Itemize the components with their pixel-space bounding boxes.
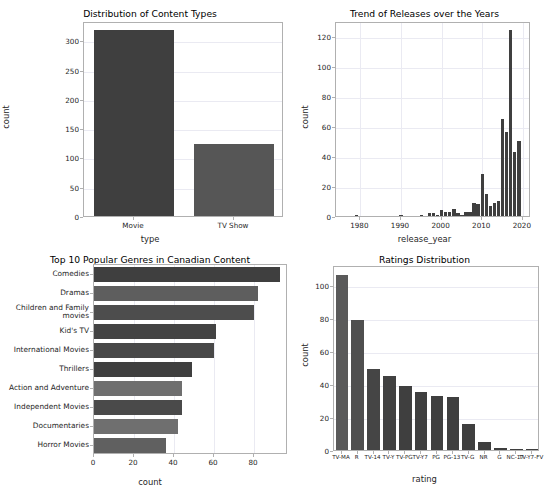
bar xyxy=(452,209,455,217)
y-axis-category-label: International Movies xyxy=(0,345,89,353)
y-axis-tick-label: 80 xyxy=(307,314,329,323)
chart-title-release-trend: Trend of Releases over the Years xyxy=(300,8,549,19)
x-axis-tick-label: NR xyxy=(479,454,487,460)
y-axis-tick-label: 200 xyxy=(57,95,79,104)
x-axis-tickmark xyxy=(133,217,134,220)
y-axis-label-content-types: count xyxy=(1,105,11,129)
y-axis-category-label: Dramas xyxy=(0,288,89,296)
x-axis-tickmark xyxy=(341,451,342,454)
y-axis-tick-label: 0 xyxy=(307,447,329,456)
bar xyxy=(94,362,192,377)
y-axis-tick-label: 300 xyxy=(57,37,79,46)
y-axis-tick-label: 40 xyxy=(307,380,329,389)
x-axis-tickmark xyxy=(484,451,485,454)
bar xyxy=(94,286,258,301)
y-axis-tickmark xyxy=(332,187,335,188)
y-axis-tickmark xyxy=(90,312,93,313)
bar xyxy=(420,215,423,217)
bar xyxy=(94,305,254,320)
y-axis-tickmark xyxy=(80,100,83,101)
bar xyxy=(94,30,174,216)
bar xyxy=(94,381,182,396)
y-axis-tickmark xyxy=(80,158,83,159)
bar xyxy=(489,206,492,217)
gridline xyxy=(334,287,538,288)
plot-area-ratings-distribution xyxy=(333,266,539,451)
bar xyxy=(383,376,396,450)
bar xyxy=(94,438,166,453)
bar xyxy=(497,201,500,216)
y-axis-tick-label: 100 xyxy=(307,281,329,290)
y-axis-tickmark xyxy=(330,319,333,320)
y-axis-tickmark xyxy=(330,385,333,386)
y-axis-tickmark xyxy=(80,129,83,130)
y-axis-tickmark xyxy=(90,274,93,275)
y-axis-tickmark xyxy=(90,426,93,427)
bar xyxy=(355,215,358,217)
y-axis-tickmark xyxy=(90,369,93,370)
x-axis-tick-label: 2000 xyxy=(431,221,449,230)
x-axis-tick-label: 40 xyxy=(168,458,177,467)
y-axis-category-label: Kid's TV xyxy=(0,326,89,334)
bar xyxy=(476,204,479,216)
bar xyxy=(447,397,460,450)
gridline xyxy=(336,98,529,99)
y-axis-tickmark xyxy=(332,67,335,68)
x-axis-tickmark xyxy=(373,451,374,454)
x-axis-tickmark xyxy=(233,217,234,220)
x-axis-tick-label: TV-PG xyxy=(396,454,413,460)
x-axis-tick-label: TV-14 xyxy=(365,454,381,460)
y-axis-category-label: Action and Adventure xyxy=(0,383,89,391)
gridline xyxy=(401,23,402,216)
x-axis-tickmark xyxy=(441,217,442,220)
x-axis-tick-label: TV-MA xyxy=(332,454,350,460)
x-axis-tickmark xyxy=(499,451,500,454)
x-axis-tick-label: 2020 xyxy=(513,221,531,230)
x-axis-tick-label: TV-G xyxy=(461,454,474,460)
y-axis-tickmark xyxy=(90,331,93,332)
x-axis-tickmark xyxy=(531,451,532,454)
bar xyxy=(94,324,216,339)
x-axis-tick-label: 1980 xyxy=(350,221,368,230)
y-axis-tick-label: 0 xyxy=(309,213,331,222)
x-axis-tickmark xyxy=(357,451,358,454)
bar xyxy=(94,419,178,434)
bar xyxy=(513,152,516,217)
plot-area-top-genres xyxy=(93,264,287,454)
bar xyxy=(440,210,443,216)
bar xyxy=(94,267,280,282)
plot-area-content-types xyxy=(83,22,283,217)
matplotlib-figure: Distribution of Content Types count type… xyxy=(0,0,549,495)
x-axis-tickmark xyxy=(133,454,134,457)
panel-release-trend: Trend of Releases over the Years count r… xyxy=(300,0,549,250)
bar xyxy=(509,30,512,216)
bar xyxy=(448,212,451,217)
x-axis-tick-label: TV-Y xyxy=(383,454,395,460)
y-axis-tick-label: 80 xyxy=(309,93,331,102)
bar xyxy=(94,400,182,415)
chart-title-ratings-distribution: Ratings Distribution xyxy=(300,254,549,265)
x-axis-tick-label: TV-Y7-FV xyxy=(519,454,543,460)
y-axis-tick-label: 40 xyxy=(309,153,331,162)
bar xyxy=(460,215,463,217)
y-axis-tick-label: 20 xyxy=(307,413,329,422)
x-axis-tickmark xyxy=(359,217,360,220)
x-axis-tickmark xyxy=(93,454,94,457)
x-axis-tick-label: PG-13 xyxy=(443,454,460,460)
y-axis-tickmark xyxy=(330,352,333,353)
panel-ratings-distribution: Ratings Distribution count rating 020406… xyxy=(300,250,549,495)
gridline xyxy=(334,320,538,321)
y-axis-tick-label: 150 xyxy=(57,125,79,134)
bar xyxy=(478,442,491,450)
x-axis-tickmark xyxy=(400,217,401,220)
bar xyxy=(336,275,349,450)
bar xyxy=(415,392,428,450)
gridline xyxy=(336,68,529,69)
gridline xyxy=(334,386,538,387)
bar xyxy=(505,132,508,216)
x-axis-tick-label: 0 xyxy=(91,458,96,467)
bar xyxy=(517,141,520,216)
bar xyxy=(493,203,496,217)
y-axis-tickmark xyxy=(90,407,93,408)
x-axis-tickmark xyxy=(468,451,469,454)
